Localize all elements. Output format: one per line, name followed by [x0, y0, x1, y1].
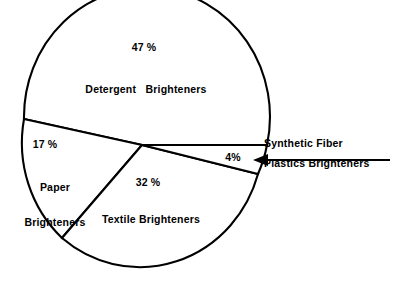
pie-slice-detergent-brighteners[interactable]	[24, 0, 270, 145]
callout-label-line2: Plastics Brighteners	[264, 158, 394, 170]
slice-label-paper-name-line1: Paper	[24, 182, 85, 194]
slice-label-detergent-name: Detergent Brighteners	[85, 84, 206, 96]
slice-label-textile-name: Textile Brighteners	[102, 214, 200, 226]
callout-label-line1: Synthetic Fiber	[264, 138, 394, 150]
slice-label-paper-name: Paper Brighteners	[24, 158, 85, 252]
callout-label-synthetic-fiber-plastics: Synthetic Fiber Plastics Brighteners	[264, 138, 394, 170]
slice-label-paper-percent: 17 %	[33, 139, 58, 151]
slice-label-detergent-percent: 47 %	[132, 42, 157, 54]
slice-label-paper-name-line2: Brighteners	[24, 217, 85, 229]
slice-label-textile-percent: 32 %	[136, 177, 161, 189]
slice-label-synthetic-fiber-percent: 4%	[225, 152, 241, 164]
pie-chart-figure: 47 % Detergent Brighteners 17 % Paper Br…	[0, 0, 397, 288]
